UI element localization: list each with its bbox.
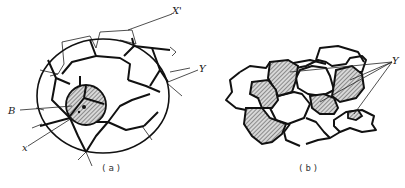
panel-a: X' Y B x (a) [7,5,207,173]
shaded-grain [332,66,364,102]
label-y-b: Y [392,55,400,66]
label-y-a: Y [199,63,207,74]
caption-a: (a) [101,163,123,173]
panel-b: Y (b) [226,46,400,173]
point-marker-small [78,111,80,113]
shaded-grains [244,60,364,144]
label-x-prime: X' [171,5,182,16]
caption-b: (b) [298,163,320,173]
label-b: B [7,105,15,116]
point-marker [82,105,86,109]
shaded-grain-small [348,110,362,120]
shaded-grain [310,94,338,114]
label-x: x [22,142,28,153]
figure-canvas: X' Y B x (a) [0,0,405,188]
shaded-grain [244,108,286,144]
